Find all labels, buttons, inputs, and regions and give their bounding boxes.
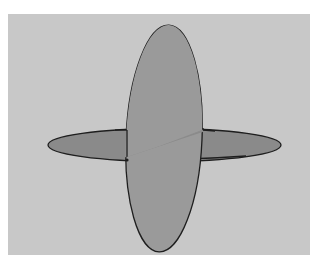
intersection-point [125,158,128,161]
intersecting-discs-diagram [0,0,318,268]
